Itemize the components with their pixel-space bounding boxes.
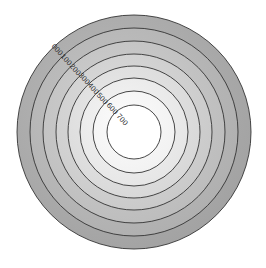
contour-plot-canvas: 000100200300400500600700 (0, 0, 266, 268)
contour-plot-figure: 000100200300400500600700 (0, 0, 266, 268)
